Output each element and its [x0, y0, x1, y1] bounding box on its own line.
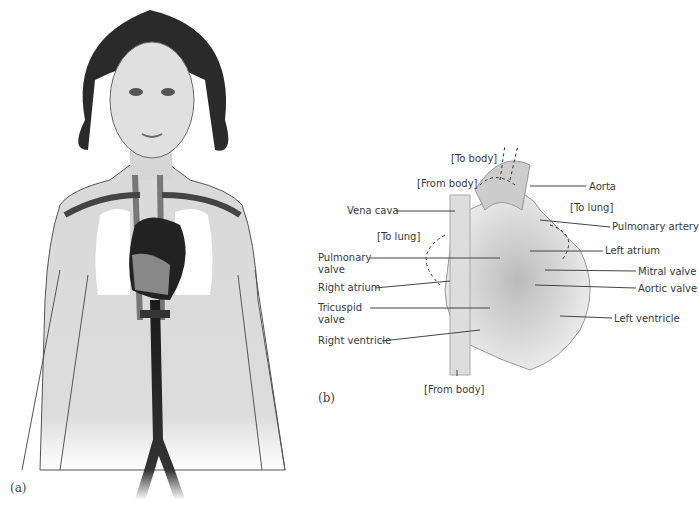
panel-a-caption: (a) — [10, 481, 27, 495]
label-tricuspid-valve: Tricuspid valve — [318, 302, 378, 326]
label-aorta: Aorta — [589, 181, 616, 193]
label-aortic-valve: Aortic valve — [638, 283, 697, 295]
label-left-atrium: Left atrium — [605, 245, 660, 257]
label-to-lung-right: [To lung] — [570, 202, 613, 214]
label-vena-cava: Vena cava — [347, 205, 399, 217]
label-pulmonary-valve: Pulmonary valve — [318, 252, 378, 276]
panel-a-body-figure: (a) — [0, 0, 300, 513]
body-illustration — [0, 0, 300, 513]
label-from-body-top: [From body] — [417, 178, 478, 190]
label-to-body: [To body] — [451, 153, 497, 165]
panel-b-caption: (b) — [318, 391, 335, 405]
label-to-lung-left: [To lung] — [377, 231, 420, 243]
label-right-atrium: Right atrium — [318, 282, 381, 294]
label-mitral-valve: Mitral valve — [638, 266, 696, 278]
label-left-ventricle: Left ventricle — [614, 313, 680, 325]
panel-b-heart-diagram: [To body] [From body] Aorta Vena cava [T… — [300, 0, 690, 513]
label-pulmonary-artery: Pulmonary artery — [612, 221, 699, 233]
label-from-body-bottom: [From body] — [424, 384, 485, 396]
label-right-ventricle: Right ventricle — [318, 335, 391, 347]
